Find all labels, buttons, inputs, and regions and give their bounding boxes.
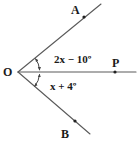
angle-label-POB: x + 4º bbox=[50, 81, 76, 92]
angle-arc-POB bbox=[35, 74, 40, 86]
point-dot-P bbox=[113, 70, 116, 73]
point-label-B: B bbox=[61, 128, 69, 140]
point-label-O: O bbox=[3, 66, 12, 78]
angle-label-AOP: 2x − 10º bbox=[54, 54, 91, 65]
figure-canvas bbox=[0, 0, 138, 145]
point-dot-B bbox=[73, 119, 76, 122]
point-label-P: P bbox=[112, 57, 119, 69]
geometry-figure: A P B O 2x − 10º x + 4º bbox=[0, 0, 138, 145]
point-dot-A bbox=[82, 15, 85, 18]
angle-arc-AOP bbox=[35, 59, 39, 71]
point-label-A: A bbox=[71, 4, 80, 16]
